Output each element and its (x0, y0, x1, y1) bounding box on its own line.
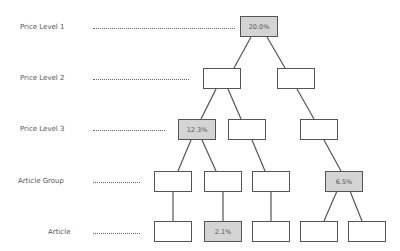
node-article-group-b (204, 171, 242, 192)
node-article-e (348, 221, 386, 242)
node-article-d (300, 221, 338, 242)
node-article-group-d: 6.5% (325, 171, 363, 192)
node-price-level-3-c (300, 119, 338, 140)
node-price-level-2-left (203, 68, 241, 89)
node-article-c (252, 221, 290, 242)
node-article-group-c (252, 171, 290, 192)
node-article-b: 2.1% (204, 221, 242, 242)
node-article-a (154, 221, 192, 242)
node-article-group-a (154, 171, 192, 192)
node-price-level-1: 20.0% (240, 16, 278, 37)
node-price-level-3-b (228, 119, 266, 140)
node-price-level-3-a: 12.3% (178, 119, 216, 140)
node-price-level-2-right (277, 68, 315, 89)
